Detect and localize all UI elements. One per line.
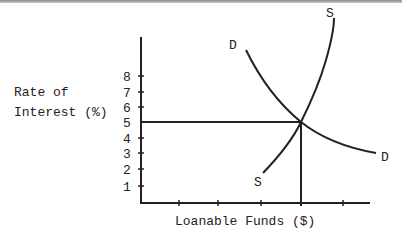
- x-axis-label: Loanable Funds ($): [175, 214, 315, 229]
- y-tick-label-2: 2: [123, 163, 131, 178]
- y-tick-label-8: 8: [123, 70, 131, 85]
- y-tick-label-7: 7: [123, 86, 131, 101]
- supply-label-bottom: S: [254, 175, 262, 190]
- y-tick-label-1: 1: [123, 180, 131, 195]
- demand-label-bottom: D: [381, 150, 389, 165]
- supply-label-top: S: [326, 6, 334, 21]
- y-axis-label-line1: Rate of: [14, 85, 69, 100]
- y-axis-label-line2: Interest (%): [14, 105, 108, 120]
- y-tick-label-3: 3: [123, 147, 131, 162]
- y-tick-label-6: 6: [123, 101, 131, 116]
- demand-label-top: D: [229, 38, 237, 53]
- y-tick-label-5: 5: [123, 116, 131, 131]
- y-tick-label-4: 4: [123, 132, 131, 147]
- loanable-funds-chart: 8 7 6 5 4 3 2 1 Rate of Interest (%) Loa…: [0, 0, 402, 238]
